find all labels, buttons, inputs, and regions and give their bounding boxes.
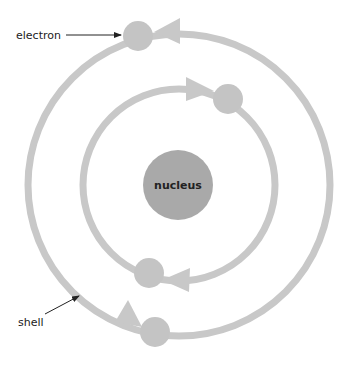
electron xyxy=(140,317,170,347)
electron xyxy=(134,258,164,288)
electron-label: electron xyxy=(16,29,61,42)
nucleus-label: nucleus xyxy=(154,179,202,192)
electron xyxy=(213,84,243,114)
inner-bottom-arrowhead-icon xyxy=(162,268,190,292)
shell-pointer-arrow-icon xyxy=(45,296,79,314)
atom-diagram: nucleus electron shell xyxy=(0,0,344,368)
electron xyxy=(123,21,153,51)
shell-label: shell xyxy=(18,316,44,329)
outer-top-arrowhead-icon xyxy=(154,18,180,44)
